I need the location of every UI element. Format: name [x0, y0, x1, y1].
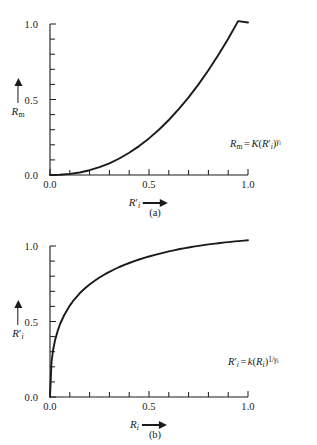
panel-a-curve — [50, 21, 248, 175]
panel-a-axes — [50, 24, 248, 175]
panel-a-equation: Rm=K(R′i)γi — [230, 137, 281, 151]
arrow-up-icon — [13, 78, 22, 104]
panel-b-ytick-1-0: 1.0 — [14, 241, 38, 252]
arrow-up-icon — [13, 300, 22, 326]
panel-a-yaxis-title-text: Rm — [11, 105, 24, 117]
gamma-correction-figure: 1.0 0.5 0.0 0.0 0.5 1.0 Rm R′i Rm=K(R′i)… — [0, 0, 317, 445]
panel-a-caption: (a) — [149, 207, 161, 218]
panel-a-xaxis-title-text: R′i — [129, 196, 140, 210]
panel-b-ytick-0-0: 0.0 — [14, 392, 38, 403]
panel-b-xtick-1-0: 1.0 — [241, 401, 254, 412]
panel-b-yaxis-title: R′i — [12, 300, 23, 341]
panel-b-xtick-0-0: 0.0 — [43, 401, 56, 412]
panel-b-x-ticks — [50, 391, 248, 397]
panel-a-ytick-0-0: 0.0 — [14, 170, 38, 181]
panel-b-yaxis-title-text: R′i — [12, 327, 23, 339]
panel-a-xtick-1-0: 1.0 — [241, 179, 254, 190]
panel-b-xtick-0-5: 0.5 — [142, 401, 155, 412]
panel-b-xaxis-title-text: Ri — [130, 418, 139, 432]
panel-b-equation: R′i=k(Ri)1/γi — [228, 355, 279, 369]
panel-a-y-ticks — [50, 24, 56, 175]
panel-a: 1.0 0.5 0.0 0.0 0.5 1.0 Rm R′i Rm=K(R′i)… — [0, 0, 317, 222]
panel-a-ytick-1-0: 1.0 — [14, 19, 38, 30]
panel-b-curve — [50, 240, 248, 397]
panel-b-axes — [50, 246, 248, 397]
panel-b: 1.0 0.5 0.0 0.0 0.5 1.0 R′i Ri R′i=k(Ri)… — [0, 222, 317, 444]
panel-a-yaxis-title: Rm — [11, 78, 24, 119]
panel-b-caption: (b) — [149, 429, 161, 440]
panel-a-xtick-0-5: 0.5 — [142, 179, 155, 190]
panel-a-xtick-0-0: 0.0 — [43, 179, 56, 190]
